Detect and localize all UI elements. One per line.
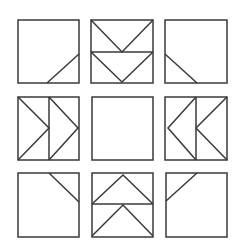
cell-r2-c3 <box>165 97 227 160</box>
cell-r3-c3 <box>166 173 227 237</box>
cell-r3-c1 <box>18 173 79 237</box>
cell-r1-c3 <box>165 20 227 83</box>
cell-r1-c1 <box>18 20 79 83</box>
cell-r1-c2 <box>91 20 153 83</box>
cell-r3-c2 <box>92 173 153 237</box>
cell-r2-c1 <box>18 97 79 160</box>
puzzle-grid <box>0 0 238 246</box>
cell-r2-c2 <box>92 97 153 160</box>
